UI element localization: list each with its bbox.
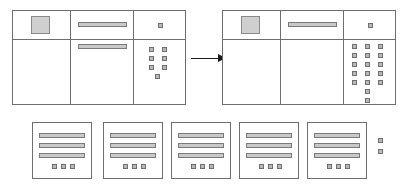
card-marker[interactable]: [336, 164, 341, 169]
before-result-marker-top[interactable]: [158, 23, 163, 28]
result-card-2[interactable]: [103, 122, 163, 179]
card-marker[interactable]: [191, 164, 196, 169]
card-marker[interactable]: [132, 164, 137, 169]
marker[interactable]: [352, 53, 357, 58]
card-marker[interactable]: [123, 164, 128, 169]
after-image-placeholder[interactable]: [241, 16, 260, 34]
card-bar-2[interactable]: [39, 143, 85, 148]
card-bar-2[interactable]: [314, 143, 360, 148]
card-marker[interactable]: [61, 164, 66, 169]
marker[interactable]: [365, 62, 370, 67]
before-headline-bar-bottom[interactable]: [78, 44, 127, 49]
marker[interactable]: [162, 56, 167, 61]
marker[interactable]: [378, 44, 383, 49]
card-marker[interactable]: [141, 164, 146, 169]
card-marker[interactable]: [277, 164, 282, 169]
marker[interactable]: [365, 89, 370, 94]
marker[interactable]: [149, 65, 154, 70]
marker[interactable]: [378, 53, 383, 58]
marker[interactable]: [365, 53, 370, 58]
result-card-5[interactable]: [307, 122, 367, 179]
marker[interactable]: [365, 98, 370, 103]
card-bar-2[interactable]: [246, 143, 292, 148]
card-bar-3[interactable]: [178, 153, 224, 158]
card-marker[interactable]: [345, 164, 350, 169]
result-card-3[interactable]: [171, 122, 231, 179]
before-column-divider-2: [133, 11, 134, 104]
marker[interactable]: [352, 44, 357, 49]
after-result-marker-grid: [352, 44, 391, 104]
marker[interactable]: [365, 71, 370, 76]
before-column-divider-1: [70, 11, 71, 104]
card-bar-1[interactable]: [110, 133, 156, 138]
marker[interactable]: [352, 71, 357, 76]
card-marker[interactable]: [327, 164, 332, 169]
card-bar-1[interactable]: [246, 133, 292, 138]
after-row-divider: [223, 39, 395, 40]
after-headline-bar-top[interactable]: [288, 22, 337, 27]
card-bar-2[interactable]: [110, 143, 156, 148]
marker[interactable]: [352, 80, 357, 85]
card-bar-3[interactable]: [110, 153, 156, 158]
result-card-1[interactable]: [32, 122, 92, 179]
card-bar-2[interactable]: [178, 143, 224, 148]
before-row-divider: [13, 39, 185, 40]
marker[interactable]: [378, 62, 383, 67]
diagram-canvas: [0, 0, 409, 190]
card-marker[interactable]: [52, 164, 57, 169]
card-marker[interactable]: [259, 164, 264, 169]
result-card-4[interactable]: [239, 122, 299, 179]
marker[interactable]: [352, 62, 357, 67]
overflow-marker[interactable]: [378, 149, 383, 154]
card-marker[interactable]: [200, 164, 205, 169]
marker[interactable]: [155, 74, 160, 79]
marker[interactable]: [378, 80, 383, 85]
card-marker[interactable]: [70, 164, 75, 169]
marker[interactable]: [162, 65, 167, 70]
overflow-markers: [378, 138, 384, 155]
card-bar-3[interactable]: [246, 153, 292, 158]
marker[interactable]: [149, 47, 154, 52]
marker[interactable]: [365, 80, 370, 85]
marker[interactable]: [149, 56, 154, 61]
card-bar-3[interactable]: [314, 153, 360, 158]
card-marker[interactable]: [209, 164, 214, 169]
before-headline-bar-top[interactable]: [78, 22, 127, 27]
after-column-divider-2: [343, 11, 344, 104]
card-bar-1[interactable]: [39, 133, 85, 138]
after-layout-panel[interactable]: [222, 10, 396, 105]
card-bar-3[interactable]: [39, 153, 85, 158]
marker[interactable]: [378, 71, 383, 76]
marker[interactable]: [162, 47, 167, 52]
card-bar-1[interactable]: [178, 133, 224, 138]
before-result-marker-grid: [149, 47, 175, 83]
marker[interactable]: [365, 44, 370, 49]
after-column-divider-1: [280, 11, 281, 104]
overflow-marker[interactable]: [378, 138, 383, 143]
before-image-placeholder[interactable]: [31, 16, 50, 34]
after-result-marker-top[interactable]: [368, 23, 373, 28]
arrow-shaft: [191, 58, 219, 59]
card-bar-1[interactable]: [314, 133, 360, 138]
before-layout-panel[interactable]: [12, 10, 186, 105]
card-marker[interactable]: [268, 164, 273, 169]
